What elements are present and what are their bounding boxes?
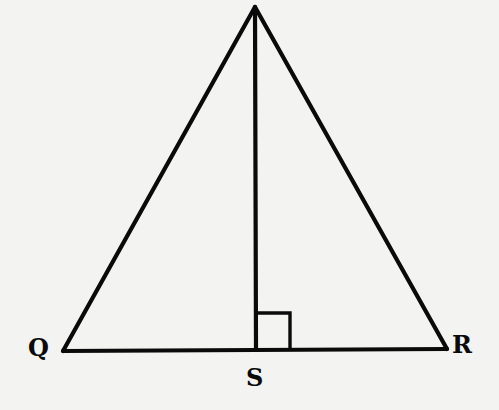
side-apex-r (255, 7, 447, 349)
diagram-canvas: Q S R (0, 0, 499, 410)
triangle-diagram: Q S R (0, 0, 499, 410)
altitude-apex-s (255, 7, 256, 350)
right-angle-marker (256, 313, 290, 350)
side-apex-q (63, 7, 255, 351)
label-q: Q (28, 333, 49, 362)
label-s: S (246, 363, 263, 392)
label-r: R (452, 330, 473, 359)
